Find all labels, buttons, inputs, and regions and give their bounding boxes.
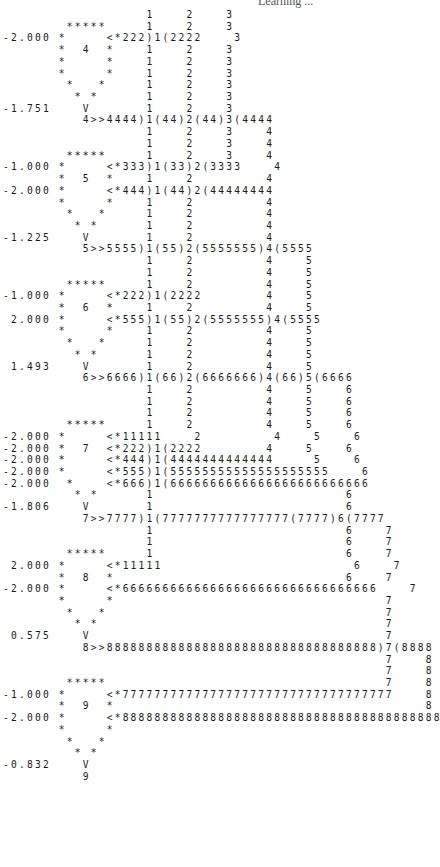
printout-line: 7 8 [3,654,440,666]
printout-line: 1 2 4 5 [3,255,440,267]
printout-line: -1.806 V 1 6 [3,501,440,513]
printout-line: * * 7 [3,607,440,619]
printout-line: 2.000 * <*555)1(55)2(5555555)4(5555 [3,314,440,326]
printout-line: 1 2 4 5 6 [3,384,440,396]
printout-line: * * 7 [3,595,440,607]
printout-line: 1.493 V 1 2 4 5 [3,361,440,373]
printout-line: -2.000 * <*444)1(4444444444444 5 6 [3,454,440,466]
printout-line: * * 1 2 3 [3,68,440,80]
printout-line: -1.225 V 1 2 4 [3,232,440,244]
printout-line: * * [3,724,440,736]
running-header: Learning ... [258,0,313,9]
printout-line: * 8 * 6 7 [3,572,440,584]
printout-line: * * 1 2 4 5 [3,325,440,337]
printout-line: ***** 7 8 [3,677,440,689]
printout-line: 1 6 7 [3,525,440,537]
printout-line: * * [3,747,440,759]
printout-line: * * 1 2 3 [3,79,440,91]
printout-line: * * 1 2 4 5 [3,349,440,361]
printout-line: ***** 1 2 4 5 [3,279,440,291]
printout-line: 1 2 3 [3,9,440,21]
printout-line: * 5 * 1 2 4 [3,173,440,185]
printout-line: -1.751 V 1 2 3 [3,103,440,115]
printout-line: -2.000 * <*66666666666666666666666666666… [3,583,440,595]
printout-line: -2.000 * <*555)1(55555555555555555555 6 [3,466,440,478]
printout-line: ***** 1 6 7 [3,548,440,560]
printout-line: -2.000 * <*88888888888888888888888888888… [3,712,440,724]
printout-line: 1 2 4 5 6 [3,396,440,408]
printout-line: 1 6 7 [3,536,440,548]
printout-line: * * 1 2 3 [3,56,440,68]
printout-line: 6>>6666)1(66)2(6666666)4(66)5(6666 [3,372,440,384]
printout-line: -1.000 * <*77777777777777777777777777777… [3,689,440,701]
printout-line: ***** 1 2 3 4 [3,150,440,162]
printout-line: 2.000 * <*11111 6 7 [3,560,440,572]
printout-line: 4>>4444)1(44)2(44)3(4444 [3,114,440,126]
printout-line: * * [3,736,440,748]
printout-line: 8>>8888888888888888888888888888888888)7(… [3,642,440,654]
printout-line: * * 1 2 4 5 [3,337,440,349]
printout-line: ***** 1 2 4 5 6 [3,419,440,431]
printout-line: 1 2 3 4 [3,138,440,150]
printout-line: * * 1 2 4 [3,220,440,232]
printout-line: 1 2 4 5 6 [3,407,440,419]
printout-line: -2.000 * <*666)1(66666666666666666666666… [3,478,440,490]
printout-line: * * 7 [3,618,440,630]
printout-line: 7 8 [3,665,440,677]
printout-line: 9 [3,771,440,783]
printout-line: -2.000 * <*11111 2 4 5 6 [3,431,440,443]
printout-line: 1 2 4 5 [3,267,440,279]
printout-line: * 6 * 1 2 4 5 [3,302,440,314]
printout-line: * 4 * 1 2 3 [3,44,440,56]
printout-line: ***** 1 2 3 [3,21,440,33]
printout-line: * * 1 2 3 [3,91,440,103]
printout-line: -0.832 V [3,759,440,771]
printout-line: -1.000 * <*333)1(33)2(3333 4 [3,161,440,173]
printout-line: * * 1 6 [3,489,440,501]
printout-line: * * 1 2 4 [3,197,440,209]
network-printout: 1 2 3 ***** 1 2 3-2.000 * <*222)1(2222 3… [3,9,440,782]
printout-line: * 9 * 8 [3,700,440,712]
printout-line: -2.000 * 7 <*222)1(2222 4 5 6 [3,443,440,455]
printout-line: 7>>7777)1(7777777777777777(7777)6(7777 [3,513,440,525]
printout-line: 1 2 3 4 [3,126,440,138]
printout-line: -1.000 * <*222)1(2222 4 5 [3,290,440,302]
printout-line: 0.575 V 7 [3,630,440,642]
printout-line: 5>>5555)1(55)2(5555555)4(5555 [3,243,440,255]
printout-line: -2.000 * <*444)1(44)2(44444444 [3,185,440,197]
printout-line: * * 1 2 4 [3,208,440,220]
printout-line: -2.000 * <*222)1(2222 3 [3,32,440,44]
